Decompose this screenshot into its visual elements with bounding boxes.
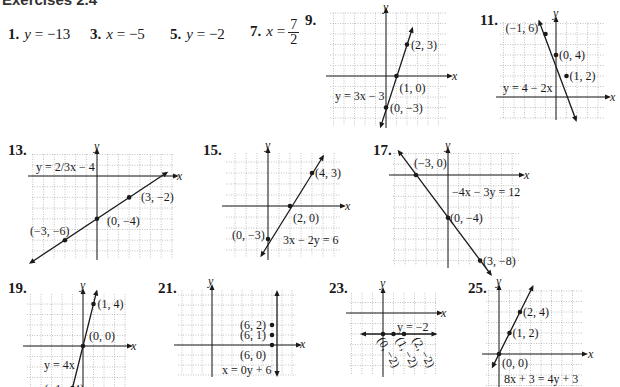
plotted-point xyxy=(507,331,512,336)
x-axis-label: x xyxy=(587,347,594,361)
point-label: (1, 2) xyxy=(513,326,539,340)
equation-label: 8x + 3 = 4y + 3 xyxy=(504,372,578,386)
graph-25: xy(2, 4)(1, 2)(0, 0)8x + 3 = 4y + 3 xyxy=(0,0,620,387)
plotted-point xyxy=(518,310,523,315)
point-label: (0, 0) xyxy=(502,356,528,370)
y-axis-label: y xyxy=(495,274,502,288)
point-label: (2, 4) xyxy=(523,305,549,319)
plotted-point xyxy=(497,352,502,357)
